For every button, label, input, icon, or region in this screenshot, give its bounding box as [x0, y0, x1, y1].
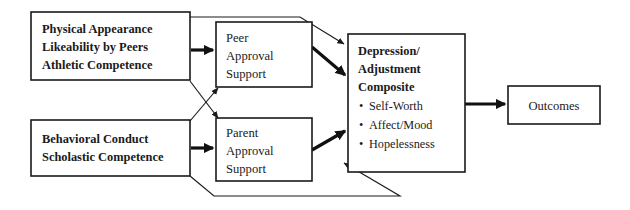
- diagram-svg: Physical Appearance Likeability by Peers…: [0, 0, 630, 210]
- path-diagram-canvas: Physical Appearance Likeability by Peers…: [0, 0, 630, 210]
- composite-bullet-marker-3: •: [359, 137, 363, 151]
- edge-parent-predictors-to-peer-approval: [190, 88, 218, 121]
- parent-approval-line-2: Approval: [226, 144, 274, 158]
- edge-parent-approval-to-composite: [312, 131, 345, 150]
- composite-heading-line-1: Depression/: [358, 44, 420, 58]
- parent-approval-line-3: Support: [226, 162, 266, 176]
- parent-predictors-box-outline: [31, 120, 190, 176]
- parent-approval-line-1: Parent: [226, 126, 259, 140]
- peer-approval-box: Peer Approval Support: [216, 22, 312, 87]
- outcomes-box: Outcomes: [508, 86, 600, 124]
- parent-predictors-line-1: Behavioral Conduct: [42, 132, 149, 146]
- composite-heading-line-2: Adjustment: [358, 62, 422, 76]
- composite-bullet-1: Self-Worth: [369, 99, 423, 113]
- peer-predictors-line-1: Physical Appearance: [42, 22, 153, 36]
- outcomes-label: Outcomes: [528, 99, 579, 113]
- peer-approval-line-1: Peer: [226, 31, 249, 45]
- parent-predictors-box: Behavioral Conduct Scholastic Competence: [31, 120, 190, 176]
- peer-predictors-box: Physical Appearance Likeability by Peers…: [31, 12, 190, 80]
- peer-predictors-line-2: Likeability by Peers: [42, 40, 148, 54]
- edge-peer-predictors-to-parent-approval: [190, 81, 218, 118]
- peer-approval-line-3: Support: [226, 67, 266, 81]
- composite-bullet-2: Affect/Mood: [369, 118, 432, 132]
- composite-bullet-marker-2: •: [359, 118, 363, 132]
- composite-heading-line-3: Composite: [358, 80, 415, 94]
- peer-predictors-line-3: Athletic Competence: [42, 58, 153, 72]
- composite-bullet-3: Hopelessness: [369, 137, 435, 151]
- parent-predictors-line-2: Scholastic Competence: [42, 150, 164, 164]
- depression-adjustment-composite-box: Depression/ Adjustment Composite • Self-…: [348, 34, 465, 172]
- peer-approval-line-2: Approval: [226, 49, 274, 63]
- parent-approval-box: Parent Approval Support: [216, 118, 312, 181]
- edge-peer-approval-to-composite: [312, 47, 345, 75]
- composite-bullet-marker-1: •: [359, 99, 363, 113]
